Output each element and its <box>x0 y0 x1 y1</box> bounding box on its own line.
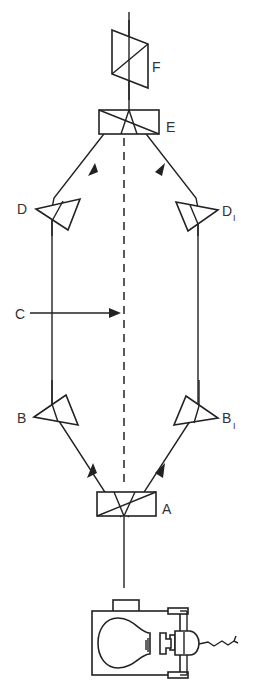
c-pointer-arrow-icon <box>109 308 121 318</box>
label-e: E <box>166 119 175 135</box>
arrow-icon-right-upper <box>155 163 165 176</box>
prism-b <box>34 380 78 425</box>
arrow-icon-left-lower <box>87 463 97 478</box>
prism-d <box>36 199 80 236</box>
label-b1-subscript: I <box>233 421 236 431</box>
label-c: C <box>15 306 25 322</box>
label-a: A <box>162 501 172 517</box>
label-b1: B <box>222 410 231 426</box>
label-d: D <box>17 201 27 217</box>
prism-b1 <box>174 380 218 425</box>
right-beam-path <box>128 112 198 517</box>
prism-d1 <box>176 202 218 236</box>
label-d1-subscript: I <box>233 213 236 223</box>
label-d1: D <box>222 203 232 219</box>
arrow-icon-right-lower <box>155 463 165 478</box>
label-f: F <box>152 59 161 75</box>
label-b: B <box>17 410 26 426</box>
arrow-icon-left-upper <box>88 163 98 176</box>
power-cord <box>199 636 238 646</box>
prism-a <box>97 492 156 516</box>
prism-f <box>112 20 148 100</box>
optical-diagram: F E D D I C B B I A <box>0 0 254 692</box>
prism-e <box>99 110 159 134</box>
